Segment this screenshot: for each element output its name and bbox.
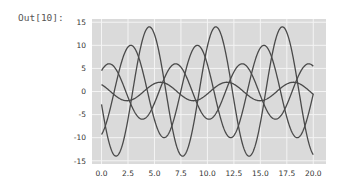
y-tick-label: 5 (81, 64, 86, 73)
y-tick-label: 0 (81, 87, 86, 96)
x-axis-ticks: 0.02.55.07.510.012.515.017.520.0 (96, 169, 322, 178)
x-tick-label: 7.5 (175, 169, 187, 178)
x-tick-label: 15.0 (252, 169, 269, 178)
x-tick-label: 17.5 (278, 169, 295, 178)
y-tick-label: -15 (74, 157, 86, 166)
y-tick-label: -5 (79, 110, 87, 119)
x-tick-label: 20.0 (305, 169, 322, 178)
y-axis-ticks: 151050-5-10-15 (74, 18, 86, 166)
y-tick-label: 10 (76, 41, 86, 50)
y-tick-label: 15 (76, 18, 86, 27)
line-chart: 151050-5-10-15 0.02.55.07.510.012.515.01… (0, 0, 342, 187)
x-tick-label: 5.0 (149, 169, 161, 178)
x-tick-label: 2.5 (122, 169, 134, 178)
y-tick-label: -10 (74, 133, 86, 142)
x-tick-label: 12.5 (226, 169, 243, 178)
x-tick-label: 10.0 (199, 169, 216, 178)
x-tick-label: 0.0 (96, 169, 108, 178)
